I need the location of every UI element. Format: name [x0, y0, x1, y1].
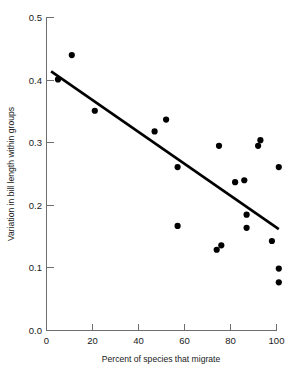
y-axis-title: Variation in bill length within groups — [6, 107, 16, 241]
x-tick-label: 60 — [179, 335, 190, 346]
data-point — [214, 247, 220, 253]
scatter-points-group — [55, 52, 282, 285]
data-point — [244, 212, 250, 218]
data-point — [216, 143, 222, 149]
x-axis-ticks — [47, 324, 277, 331]
data-point — [276, 164, 282, 170]
data-point — [241, 177, 247, 183]
data-point — [232, 179, 238, 185]
data-point — [55, 76, 61, 82]
x-tick-label: 80 — [225, 335, 236, 346]
y-tick-label: 0.3 — [29, 137, 42, 148]
data-point — [92, 108, 98, 114]
y-tick-label: 0.1 — [29, 262, 42, 273]
data-point — [163, 116, 169, 122]
x-axis-tick-labels: 0 20 40 60 80 100 — [44, 335, 285, 346]
data-point — [257, 137, 263, 143]
x-tick-label: 100 — [269, 335, 285, 346]
y-tick-label: 0.5 — [29, 12, 42, 23]
y-tick-label: 0.0 — [29, 325, 42, 336]
data-point — [244, 225, 250, 231]
data-point — [276, 279, 282, 285]
data-point — [269, 238, 275, 244]
x-tick-label: 20 — [87, 335, 98, 346]
regression-trend-line — [51, 71, 279, 229]
x-tick-label: 40 — [133, 335, 144, 346]
x-axis-title: Percent of species that migrate — [102, 354, 221, 364]
y-tick-label: 0.4 — [29, 75, 42, 86]
data-point — [152, 128, 158, 134]
y-axis-ticks — [47, 18, 54, 331]
data-point — [69, 52, 75, 58]
data-point — [175, 164, 181, 170]
y-axis-tick-labels: 0.5 0.4 0.3 0.2 0.1 0.0 — [29, 12, 42, 336]
data-point — [276, 265, 282, 271]
x-tick-label: 0 — [44, 335, 49, 346]
data-point — [175, 223, 181, 229]
data-point — [218, 242, 224, 248]
data-point — [255, 143, 261, 149]
scatter-plot-figure: 0.5 0.4 0.3 0.2 0.1 0.0 0 20 40 60 80 10… — [0, 0, 291, 376]
y-tick-label: 0.2 — [29, 200, 42, 211]
plot-canvas: 0.5 0.4 0.3 0.2 0.1 0.0 0 20 40 60 80 10… — [0, 0, 291, 376]
